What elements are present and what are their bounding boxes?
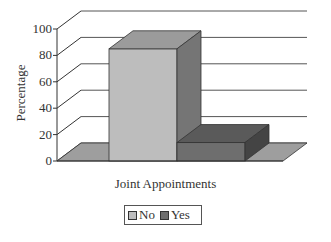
y-tick-label: 40 — [39, 100, 52, 115]
x-axis-label: Joint Appointments — [0, 176, 331, 192]
y-axis-label: Percentage — [13, 58, 29, 128]
y-tick-label: 20 — [39, 127, 52, 142]
grid-diagonal — [57, 37, 81, 55]
grid-diagonal — [57, 64, 81, 82]
legend-label-no: No — [139, 207, 155, 223]
y-tick-label: 100 — [33, 21, 53, 36]
legend-label-yes: Yes — [171, 207, 190, 223]
grid-diagonal — [57, 117, 81, 135]
bar-no-front — [109, 49, 177, 161]
bar-chart: 020406080100 Percentage Joint Appointmen… — [0, 0, 331, 242]
legend-item-no: No — [128, 207, 155, 223]
y-tick-label: 60 — [39, 74, 52, 89]
legend-swatch-no — [128, 211, 137, 220]
legend-item-yes: Yes — [160, 207, 190, 223]
bar-yes-front — [177, 143, 245, 161]
legend-swatch-yes — [160, 211, 169, 220]
grid-diagonal — [57, 11, 81, 29]
y-tick-label: 0 — [46, 153, 53, 168]
y-tick-label: 80 — [39, 47, 52, 62]
legend: No Yes — [124, 205, 202, 225]
grid-diagonal — [57, 90, 81, 108]
